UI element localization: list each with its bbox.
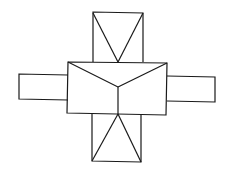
right-wing <box>167 76 215 102</box>
left-wing <box>19 74 68 100</box>
center-box <box>67 62 167 115</box>
bottom-wing <box>92 114 141 162</box>
top-wing <box>93 12 143 62</box>
roof-plan-diagram <box>0 0 227 183</box>
